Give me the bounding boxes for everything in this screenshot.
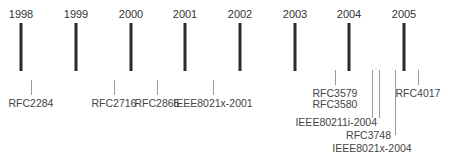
- year-marker-2005: [403, 23, 406, 71]
- event-tick-rfc2284: [31, 80, 32, 95]
- event-label: RFC2284: [9, 97, 54, 109]
- event-label: RFC4017: [396, 87, 441, 99]
- event-tick-rfc2716: [114, 80, 115, 95]
- year-marker-2000: [130, 23, 133, 71]
- year-marker-2002: [239, 23, 242, 71]
- year-marker-1999: [75, 23, 78, 71]
- event-label: RFC3748: [346, 129, 391, 141]
- year-label-2002: 2002: [228, 8, 252, 20]
- year-label-2001: 2001: [173, 8, 197, 20]
- event-label: RFC3580: [313, 98, 358, 110]
- event-tick-rfc4017: [418, 70, 419, 85]
- year-label-1999: 1999: [64, 8, 88, 20]
- year-label-2003: 2003: [283, 8, 307, 20]
- year-label-2000: 2000: [119, 8, 143, 20]
- event-tick-ieee80211i-2004: [372, 70, 373, 118]
- year-label-2004: 2004: [337, 8, 361, 20]
- year-label-2005: 2005: [392, 8, 416, 20]
- year-label-1998: 1998: [9, 8, 33, 20]
- year-marker-1998: [20, 23, 23, 71]
- year-marker-2003: [294, 23, 297, 71]
- event-tick-ieee8021x-2001: [213, 80, 214, 95]
- event-tick-rfc3579: [335, 70, 336, 85]
- event-tick-rfc2865: [157, 80, 158, 95]
- event-label: IEEE8021x-2004: [332, 142, 411, 154]
- event-label: IEEE80211i-2004: [295, 116, 377, 128]
- event-label: RFC2716: [92, 97, 137, 109]
- year-marker-2001: [184, 23, 187, 71]
- event-label: IEEE8021x-2001: [173, 97, 252, 109]
- year-marker-2004: [348, 23, 351, 71]
- event-tick-rfc3748: [379, 70, 380, 118]
- event-tick-ieee8021x-2004: [395, 70, 396, 135]
